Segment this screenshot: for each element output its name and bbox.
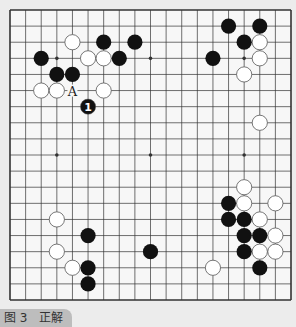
star-point: [242, 57, 246, 61]
black-stone: [221, 196, 236, 211]
black-stone: [252, 228, 267, 243]
white-stone: [49, 212, 64, 227]
black-stone: [252, 260, 267, 275]
black-stone: [80, 228, 95, 243]
white-stone: [252, 115, 267, 130]
white-stone: [49, 83, 64, 98]
star-point: [55, 153, 59, 157]
black-stone: [143, 244, 158, 259]
star-point: [149, 57, 153, 61]
white-stone: [80, 51, 95, 66]
black-stone: [49, 67, 64, 82]
white-stone: [49, 244, 64, 259]
black-stone: [34, 51, 49, 66]
black-stone: [127, 35, 142, 50]
white-stone: [268, 244, 283, 259]
white-stone: [96, 83, 111, 98]
black-stone: [237, 228, 252, 243]
white-stone: [96, 51, 111, 66]
black-stone: [237, 244, 252, 259]
white-stone: [237, 180, 252, 195]
white-stone: [205, 260, 220, 275]
star-point: [55, 57, 59, 61]
move-number: 1: [84, 101, 92, 114]
go-board: A1: [0, 0, 296, 310]
star-point: [242, 153, 246, 157]
black-stone: [80, 260, 95, 275]
white-stone: [252, 212, 267, 227]
black-stone: [96, 35, 111, 50]
white-stone: [252, 35, 267, 50]
white-stone: [252, 51, 267, 66]
point-label-A: A: [67, 84, 78, 99]
black-stone: [221, 19, 236, 34]
white-stone: [34, 83, 49, 98]
black-stone: [221, 212, 236, 227]
black-stone: [252, 19, 267, 34]
black-stone: [237, 212, 252, 227]
white-stone: [268, 228, 283, 243]
white-stone: [237, 196, 252, 211]
white-stone: [252, 244, 267, 259]
black-stone: [205, 51, 220, 66]
black-stone: [237, 35, 252, 50]
black-stone: [65, 67, 80, 82]
white-stone: [65, 260, 80, 275]
black-stone: [80, 276, 95, 291]
figure-caption: 图 3 正解: [0, 309, 72, 327]
star-point: [149, 153, 153, 157]
black-stone: [112, 51, 127, 66]
white-stone: [237, 67, 252, 82]
white-stone: [268, 196, 283, 211]
white-stone: [65, 35, 80, 50]
